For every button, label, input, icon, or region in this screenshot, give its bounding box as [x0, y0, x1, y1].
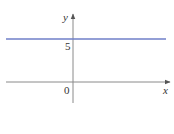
origin-label: 0 — [64, 84, 70, 96]
chart-canvas: y 5 0 x — [0, 0, 174, 134]
y-axis-label: y — [62, 11, 68, 23]
x-axis-label: x — [162, 84, 168, 96]
y-tick-label-5: 5 — [65, 40, 71, 52]
